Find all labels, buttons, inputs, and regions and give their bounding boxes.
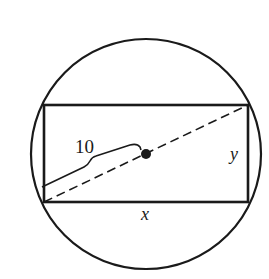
center-point	[141, 149, 151, 159]
radius-label: 10	[75, 136, 94, 157]
height-label: y	[228, 144, 238, 164]
width-label: x	[140, 204, 149, 224]
diagram-canvas: 10 y x	[0, 0, 269, 279]
